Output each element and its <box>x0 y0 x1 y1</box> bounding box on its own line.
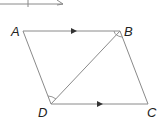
parallelogram-diagram: A B C D <box>0 0 163 125</box>
parallel-arrow-dc-icon <box>97 101 103 107</box>
side-bc <box>120 31 148 104</box>
vertex-label-b: B <box>124 24 133 39</box>
vertex-label-c: C <box>147 105 157 120</box>
parallelogram-sides <box>23 31 148 104</box>
parallel-arrow-ab-icon <box>71 28 77 34</box>
diagonal-db <box>51 31 120 104</box>
vertex-label-d: D <box>38 105 47 120</box>
vertex-label-a: A <box>10 24 20 39</box>
partial-top-figure <box>0 0 63 7</box>
side-da <box>23 31 51 104</box>
